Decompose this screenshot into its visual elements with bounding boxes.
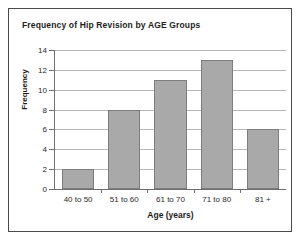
bar xyxy=(62,169,94,189)
chart-figure: Frequency of Hip Revision by AGE Groups … xyxy=(8,8,292,232)
y-axis-tick xyxy=(49,149,54,150)
gridline xyxy=(55,70,286,71)
y-axis-tick xyxy=(49,70,54,71)
x-axis-tick-label: 61 to 70 xyxy=(147,195,193,204)
x-axis-tick-label: 51 to 60 xyxy=(101,195,147,204)
x-axis-tick-label: 40 to 50 xyxy=(55,195,101,204)
x-axis-tick-label: 81 + xyxy=(240,195,286,204)
y-axis-tick xyxy=(49,50,54,51)
x-axis-tick xyxy=(240,189,241,193)
y-axis-tick xyxy=(49,169,54,170)
x-axis-tick-labels: 40 to 5051 to 6061 to 7071 to 8081 + xyxy=(55,195,286,209)
y-axis-tick-label: 10 xyxy=(17,85,47,94)
y-axis-tick-label: 4 xyxy=(17,145,47,154)
y-axis-tick xyxy=(49,189,54,190)
y-axis-tick xyxy=(49,129,54,130)
y-axis-tick-label: 8 xyxy=(17,105,47,114)
y-axis-tick-label: 6 xyxy=(17,125,47,134)
x-axis-tick xyxy=(101,189,102,193)
bar xyxy=(247,129,279,189)
x-axis-title: Age (years) xyxy=(55,210,286,220)
x-axis-tick-label: 71 to 80 xyxy=(194,195,240,204)
x-axis-tick xyxy=(147,189,148,193)
y-axis-tick-label: 14 xyxy=(17,46,47,55)
plot-area xyxy=(55,50,286,189)
chart-title: Frequency of Hip Revision by AGE Groups xyxy=(22,20,200,30)
y-axis-tick-label: 12 xyxy=(17,65,47,74)
y-axis-tick-labels: 02468101214 xyxy=(15,50,47,189)
gridline xyxy=(55,50,286,51)
bar xyxy=(108,110,140,189)
y-axis-tick xyxy=(49,90,54,91)
bar xyxy=(201,60,233,189)
y-axis-tick-label: 2 xyxy=(17,165,47,174)
y-axis-tick xyxy=(49,110,54,111)
x-axis-tick xyxy=(194,189,195,193)
y-axis-tick-label: 0 xyxy=(17,185,47,194)
bar xyxy=(154,80,186,189)
gridline xyxy=(55,189,286,190)
